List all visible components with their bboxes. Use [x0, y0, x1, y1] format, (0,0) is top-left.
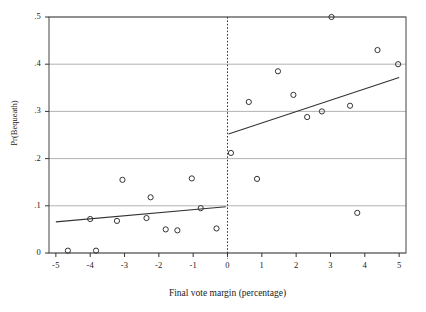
x-axis-tick-label: 0 — [214, 260, 242, 270]
data-point — [214, 226, 219, 231]
data-point — [144, 215, 149, 220]
data-point — [355, 210, 360, 215]
x-axis-tick-label: 4 — [351, 260, 379, 270]
y-axis-tick-label: .1 — [15, 200, 41, 210]
y-axis-title: Pr(Bequeath) — [9, 83, 19, 163]
figure-container: Pr(Bequeath) Final vote margin (percenta… — [0, 0, 426, 312]
data-point — [175, 228, 180, 233]
data-point — [254, 176, 259, 181]
regression-line-left — [56, 207, 226, 222]
regression-line-right — [229, 77, 400, 134]
x-axis-tick-label: 1 — [248, 260, 276, 270]
x-axis-title: Final vote margin (percentage) — [49, 288, 406, 298]
x-axis-tick-label: -2 — [145, 260, 173, 270]
x-axis-tick-label: -1 — [179, 260, 207, 270]
y-axis-tick-label: .2 — [15, 153, 41, 163]
data-point — [275, 69, 280, 74]
x-axis-tick-label: -4 — [76, 260, 104, 270]
data-point — [198, 206, 203, 211]
data-point — [120, 177, 125, 182]
data-point — [163, 227, 168, 232]
data-point — [189, 176, 194, 181]
data-point — [291, 92, 296, 97]
x-axis-tick-label: -5 — [42, 260, 70, 270]
x-axis-tick-label: 3 — [316, 260, 344, 270]
data-point — [114, 218, 119, 223]
data-point — [305, 114, 310, 119]
data-point — [228, 150, 233, 155]
x-axis-tick-label: -3 — [111, 260, 139, 270]
x-axis-tick-label: 2 — [282, 260, 310, 270]
data-point — [347, 103, 352, 108]
data-point — [148, 195, 153, 200]
y-axis-tick-label: 0 — [15, 247, 41, 257]
y-axis-tick-label: .3 — [15, 105, 41, 115]
y-axis-tick-label: .5 — [15, 11, 41, 21]
data-point — [375, 47, 380, 52]
data-point — [246, 99, 251, 104]
y-axis-tick-label: .4 — [15, 58, 41, 68]
x-axis-tick-label: 5 — [385, 260, 413, 270]
